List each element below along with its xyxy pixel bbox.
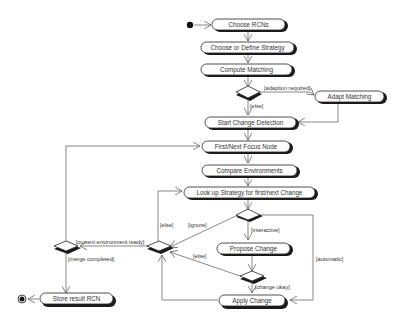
decision-change-okay [240, 271, 267, 284]
node-label: First/Next Focus Node [215, 143, 278, 150]
node-label: Propose Change [230, 245, 278, 253]
node-propose-change: Propose Change [217, 243, 293, 256]
edge-adapt-to-start [298, 102, 338, 122]
node-first-next-focus: First/Next Focus Node [202, 141, 293, 154]
edge-ignore [170, 215, 238, 247]
node-look-up-strategy: Look up Strategy for first/next Change [184, 187, 318, 200]
edge-adaption-required [256, 92, 314, 95]
guard-else: [else] [250, 103, 264, 109]
decision-strategy-type [236, 209, 263, 222]
merge-node [147, 241, 174, 254]
node-apply-change: Apply Change [219, 295, 288, 309]
edge-loop-first-next [66, 146, 200, 241]
node-choose-strategy: Choose or Define Strategy [201, 42, 297, 55]
node-label: Look up Strategy for first/next Change [196, 189, 303, 197]
node-label: Store result RCN [53, 295, 101, 302]
node-store-result: Store result RCN [40, 293, 116, 307]
node-label: Compare Environments [216, 167, 282, 175]
decision-adaption [236, 86, 262, 101]
node-label: Apply Change [232, 297, 272, 305]
node-label: Choose RCNs [228, 21, 268, 28]
guard-automatic: [automatic] [316, 256, 344, 262]
node-compare-environments: Compare Environments [202, 165, 300, 178]
node-label: Start Change Detection [218, 119, 284, 127]
guard-adaption-required: [adaption required] [264, 85, 311, 91]
activity-diagram: Choose RCNs Choose or Define Strategy Co… [0, 0, 402, 327]
guard-else: [else] [160, 222, 174, 228]
initial-node [187, 22, 193, 28]
edge-else-2 [158, 191, 182, 241]
guard-else: [else] [193, 253, 207, 259]
guard-merge-completed: [merge completed] [68, 256, 115, 262]
guard-ignore: [ignore] [188, 222, 207, 228]
guard-interactive: [interactive] [251, 227, 280, 233]
node-choose-rcns: Choose RCNs [212, 19, 288, 32]
node-compute-matching: Compute Matching [201, 64, 295, 77]
guard-change-okay: [change okay] [255, 284, 290, 290]
node-label: Compute Matching [220, 66, 273, 74]
node-start-change-detection: Start Change Detection [205, 117, 299, 130]
node-label: Choose or Define Strategy [210, 44, 285, 52]
node-label: Adapt Matching [328, 93, 372, 101]
guard-current-environment-ready: [current environment ready] [76, 239, 145, 245]
node-adapt-matching: Adapt Matching [315, 91, 387, 104]
edge-apply-to-merge [162, 255, 218, 300]
final-node [18, 295, 26, 303]
